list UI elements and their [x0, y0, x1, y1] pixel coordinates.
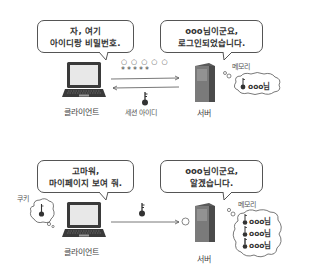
key-icon — [242, 238, 248, 249]
match-circle-icon — [181, 217, 190, 226]
server-label-top: 서버 — [197, 107, 211, 118]
bubble-tail-icon — [98, 192, 110, 202]
key-icon — [240, 78, 246, 90]
server-icon — [193, 203, 217, 243]
bubble-line: 알겠습니다. — [161, 177, 262, 189]
bubble-line: 자, 여기 — [38, 25, 133, 37]
bubble-line: 로그인되었습니다. — [161, 37, 262, 49]
client-speech-bubble-top: 자, 여기 아이디랑 비밀번호. — [37, 20, 134, 53]
bubble-line: ooo님이군요, — [161, 25, 262, 37]
bubble-tail-icon — [222, 192, 234, 202]
laptop-icon — [62, 62, 106, 102]
key-icon — [141, 92, 149, 106]
laptop-icon — [62, 202, 106, 242]
session-id-label: 세션 아이디 — [125, 107, 157, 117]
key-icon — [38, 204, 45, 217]
memory-entry: ooo님 — [249, 227, 271, 238]
server-speech-bubble-bottom: ooo님이군요, 알겠습니다. — [160, 160, 263, 193]
request-arrow-icon — [111, 75, 181, 83]
key-icon — [242, 226, 248, 237]
response-arrow-icon — [111, 84, 181, 92]
bubble-line: 고마워, — [38, 165, 133, 177]
client-label-bottom: 클라이언트 — [64, 246, 99, 257]
client-speech-bubble-bottom: 고마워, 마이페이지 보여 줘. — [37, 160, 134, 193]
server-speech-bubble-top: ooo님이군요, 로그인되었습니다. — [160, 20, 263, 53]
memory-entry: ooo님 — [249, 215, 271, 226]
id-dots: ○○○○○ — [121, 58, 172, 66]
server-icon — [193, 63, 217, 103]
bubble-line: ooo님이군요, — [161, 165, 262, 177]
password-stars: ***** — [121, 66, 151, 75]
request-arrow-icon — [111, 218, 181, 226]
client-label-top: 클라이언트 — [64, 106, 99, 117]
key-icon — [138, 203, 146, 217]
bubble-tail-icon — [98, 52, 110, 62]
memory-entry: ooo님 — [249, 239, 271, 250]
memory-entry: ooo님 — [248, 80, 270, 91]
server-label-bottom: 서버 — [197, 253, 211, 264]
bubble-line: 마이페이지 보여 줘. — [38, 177, 133, 189]
bubble-line: 아이디랑 비밀번호. — [38, 37, 133, 49]
key-icon — [242, 214, 248, 225]
